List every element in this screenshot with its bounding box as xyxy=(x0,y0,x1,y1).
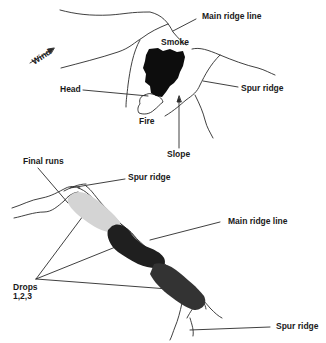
label-head: Head xyxy=(60,85,81,94)
spur-bottom-a xyxy=(170,303,182,340)
label-fire: Fire xyxy=(139,117,155,126)
label-drops: Drops 1,2,3 xyxy=(13,283,38,302)
spur-bottom-c xyxy=(190,318,193,336)
label-final-runs: Final runs xyxy=(23,157,64,166)
ridge-line-inner-left xyxy=(126,40,140,107)
leader-spur-ridge xyxy=(203,81,238,87)
leader-main-ridge xyxy=(173,19,196,31)
leader-spur-bottom xyxy=(190,327,270,330)
slope-arrow-head xyxy=(177,96,181,102)
label-main-ridge-bottom: Main ridge line xyxy=(228,217,288,226)
label-slope: Slope xyxy=(167,150,190,159)
leader-main-ridge-bottom xyxy=(150,222,220,240)
label-smoke: Smoke xyxy=(161,38,189,47)
smoke-blob xyxy=(143,48,185,97)
drop-2-dark xyxy=(107,224,165,268)
label-drops-line2: 1,2,3 xyxy=(13,292,38,301)
leader-spur-top xyxy=(70,179,125,188)
label-spur-ridge-upper: Spur ridge xyxy=(128,173,171,182)
leader-drop-3 xyxy=(36,279,168,289)
label-spur-ridge-top: Spur ridge xyxy=(241,84,284,93)
label-main-ridge-top: Main ridge line xyxy=(202,12,262,21)
fire-outline xyxy=(138,94,163,114)
spur-ridge-down xyxy=(195,95,213,138)
spur-ridge-right xyxy=(192,48,275,75)
ridge-left-lower xyxy=(14,192,78,218)
drop-3-dark xyxy=(150,263,205,310)
leader-head xyxy=(83,90,148,96)
label-spur-ridge-lower: Spur ridge xyxy=(276,322,319,331)
